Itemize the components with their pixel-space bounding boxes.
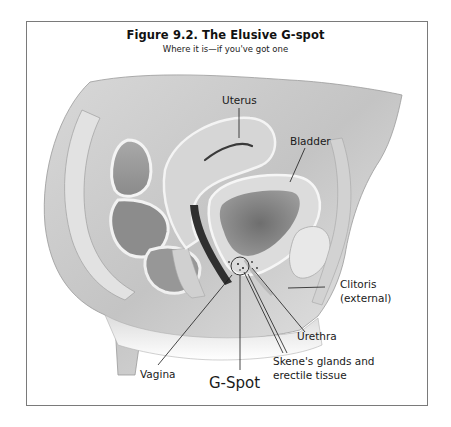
label-urethra: Urethra: [297, 330, 337, 343]
label-gspot: G-Spot: [209, 374, 260, 392]
pelvic-anatomy-illustration: [0, 0, 451, 427]
label-clitoris: Clitoris: [340, 278, 376, 291]
label-bladder: Bladder: [290, 135, 331, 148]
label-skenes-glands: Skene's glands and: [273, 355, 375, 368]
label-vagina: Vagina: [140, 368, 175, 381]
label-erectile-tissue: erectile tissue: [273, 369, 347, 382]
label-clitoris-sub: (external): [340, 292, 391, 305]
label-uterus: Uterus: [222, 94, 257, 107]
bowel-upper: [112, 140, 151, 196]
